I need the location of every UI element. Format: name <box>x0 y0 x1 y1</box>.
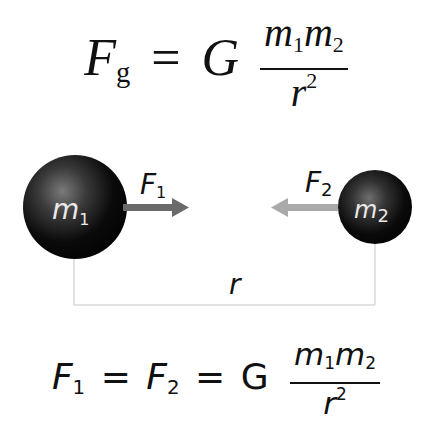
mass2-subscript: 2 <box>365 353 376 373</box>
force2-symbol: F <box>146 356 167 397</box>
mass-over-distance-fraction: m1m2 r2 <box>290 335 380 422</box>
mass1-subscript: 1 <box>324 353 335 373</box>
force2-label: F2 <box>305 166 333 200</box>
equals-sign-2: = <box>195 356 225 397</box>
gravitational-constant: G <box>241 356 269 397</box>
mass2-symbol: m <box>335 336 365 372</box>
distance-symbol: r <box>323 385 336 421</box>
mass1-symbol: m <box>294 336 324 372</box>
force1-subscript: 1 <box>73 376 86 399</box>
force2-subscript: 2 <box>167 376 180 399</box>
fraction-numerator: m1m2 <box>290 335 380 382</box>
force2-arrow <box>271 198 338 217</box>
fraction-denominator: r2 <box>290 384 380 422</box>
distance-label: r <box>229 268 242 301</box>
equal-forces-equation: F1 = F2 = G m1m2 r2 <box>0 335 432 422</box>
distance-exponent: 2 <box>336 385 347 405</box>
force1-label: F1 <box>140 168 166 202</box>
force1-symbol: F <box>52 356 73 397</box>
equals-sign-1: = <box>101 356 131 397</box>
